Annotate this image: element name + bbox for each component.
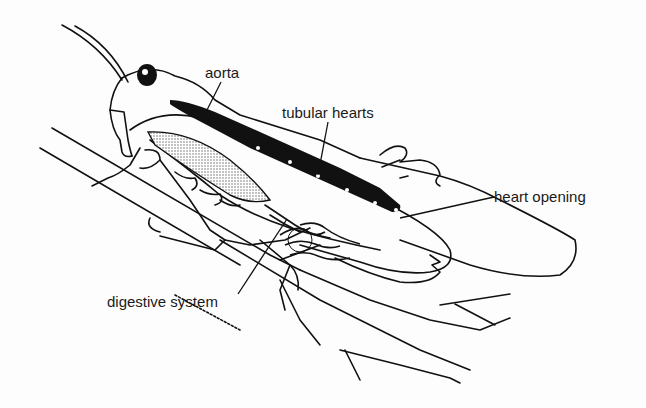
aorta-leader [206,82,221,112]
label-aorta: aorta [205,65,239,80]
branch [40,128,510,383]
label-heart-opening: heart opening [494,189,586,204]
vessel-mass [280,223,360,260]
wings [335,146,440,282]
antennae [62,25,128,82]
heart-opening-leader [400,197,494,218]
label-digestive-system: digestive system [107,294,218,309]
eye [137,64,157,86]
label-tubular-hearts: tubular hearts [282,105,374,120]
diagram-canvas: aorta tubular hearts heart opening diges… [0,0,646,408]
